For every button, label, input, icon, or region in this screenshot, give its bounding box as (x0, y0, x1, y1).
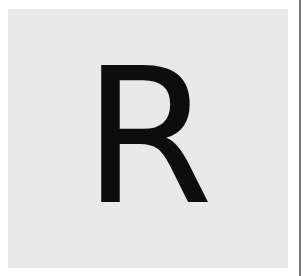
letter-tile: R (8, 9, 288, 268)
letter-card-view: R (0, 0, 308, 276)
letter-glyph: R (8, 9, 288, 268)
vertical-divider (299, 0, 301, 276)
